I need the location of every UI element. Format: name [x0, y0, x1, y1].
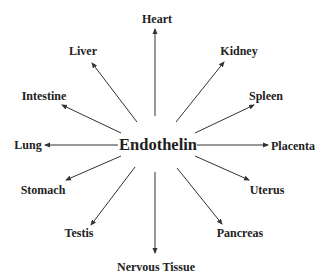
- node-lung: Lung: [14, 139, 41, 151]
- node-spleen: Spleen: [249, 90, 283, 102]
- node-kidney: Kidney: [220, 45, 257, 57]
- arrow-to-intestine: [62, 105, 121, 133]
- node-testis: Testis: [65, 227, 94, 239]
- node-nervous-tissue: Nervous Tissue: [117, 261, 195, 273]
- node-liver: Liver: [69, 45, 97, 57]
- center-node-endothelin: Endothelin: [119, 137, 197, 154]
- node-intestine: Intestine: [22, 90, 67, 102]
- arrow-to-stomach: [66, 156, 121, 180]
- arrow-to-spleen: [195, 105, 254, 133]
- arrow-to-uterus: [195, 156, 249, 180]
- node-stomach: Stomach: [21, 184, 66, 196]
- node-uterus: Uterus: [250, 184, 285, 196]
- arrow-to-kidney: [176, 62, 224, 122]
- node-heart: Heart: [142, 13, 172, 25]
- node-placenta: Placenta: [271, 140, 315, 152]
- endothelin-radial-diagram: Endothelin Heart Kidney Spleen Placenta …: [0, 0, 326, 280]
- arrow-to-pancreas: [177, 168, 222, 224]
- arrow-to-liver: [92, 63, 137, 122]
- node-pancreas: Pancreas: [217, 227, 263, 239]
- arrow-to-testis: [91, 167, 135, 225]
